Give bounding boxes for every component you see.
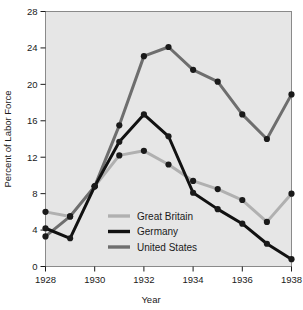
data-point-marker (190, 67, 196, 73)
data-point-marker (215, 79, 221, 85)
data-point-marker (190, 190, 196, 196)
y-axis-title: Percent of Labor Force (2, 90, 13, 187)
data-point-marker (264, 136, 270, 142)
x-axis-title: Year (141, 294, 160, 305)
chart-figure: 0481216202428 192819301932193419361938 G… (0, 0, 303, 310)
data-point-marker (42, 233, 48, 239)
data-point-marker (141, 111, 147, 117)
data-point-marker (165, 133, 171, 139)
y-axis-tick-label: 12 (27, 152, 38, 163)
data-point-marker (215, 206, 221, 212)
data-point-marker (67, 235, 73, 241)
data-point-marker (190, 178, 196, 184)
data-point-marker (288, 256, 294, 262)
data-point-marker (264, 219, 270, 225)
legend-label-united-states: United States (137, 242, 197, 253)
x-axis-tick-label: 1934 (183, 274, 204, 285)
data-point-marker (116, 152, 122, 158)
y-axis-tick-label: 0 (32, 261, 37, 272)
x-axis-tick-label: 1930 (84, 274, 105, 285)
y-axis-tick-label: 8 (32, 188, 37, 199)
data-point-marker (288, 91, 294, 97)
data-point-marker (42, 225, 48, 231)
data-point-marker (239, 221, 245, 227)
x-axis-tick-label: 1928 (35, 274, 56, 285)
data-point-marker (92, 183, 98, 189)
legend-label-germany: Germany (137, 226, 178, 237)
data-point-marker (165, 161, 171, 167)
data-point-marker (215, 186, 221, 192)
data-point-marker (239, 111, 245, 117)
data-point-marker (42, 209, 48, 215)
y-axis-tick-label: 24 (27, 42, 38, 53)
y-axis-tick-label: 20 (27, 79, 38, 90)
x-axis-tick-label: 1932 (133, 274, 154, 285)
legend-label-great-britain: Great Britain (137, 211, 193, 222)
x-axis-tick-label: 1938 (281, 274, 302, 285)
x-axis-tick-label: 1936 (232, 274, 253, 285)
data-point-marker (239, 197, 245, 203)
data-point-marker (116, 122, 122, 128)
data-point-marker (116, 139, 122, 145)
y-axis-tick-label: 4 (32, 224, 37, 235)
unemployment-line-chart: 0481216202428 192819301932193419361938 G… (0, 0, 303, 310)
data-point-marker (264, 241, 270, 247)
y-axis-tick-label: 16 (27, 115, 38, 126)
data-point-marker (165, 44, 171, 50)
data-point-marker (67, 213, 73, 219)
data-point-marker (288, 191, 294, 197)
data-point-marker (141, 148, 147, 154)
y-axis-tick-label: 28 (27, 6, 38, 17)
data-point-marker (141, 53, 147, 59)
